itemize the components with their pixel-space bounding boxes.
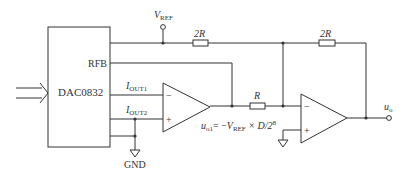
resistor-2r-1	[193, 40, 208, 46]
vref-terminal	[161, 25, 166, 30]
opamp-1-minus: −	[166, 90, 172, 101]
resistor-2r-2	[319, 40, 335, 46]
opamp-2-minus: −	[304, 101, 310, 112]
ground-icon	[278, 140, 288, 147]
iout1-label: IOUT1	[125, 80, 148, 93]
chip-label: DAC0832	[58, 86, 103, 98]
iout2-label: IOUT2	[125, 104, 148, 117]
resistor-r	[250, 103, 265, 109]
gnd-label: GND	[124, 159, 146, 170]
vref-label: VREF	[154, 9, 173, 22]
output-terminal	[387, 116, 392, 121]
resistor-2r-1-label: 2R	[194, 28, 205, 39]
input-bus-arrow-icon	[16, 83, 48, 103]
rfb-label: RFB	[88, 58, 107, 69]
circuit-diagram: DAC0832 RFB VREF 2R 2R IOUT1 IOUT2 GND −…	[0, 0, 404, 174]
output-label: uo	[384, 101, 393, 114]
opamp-1-plus: +	[166, 114, 172, 125]
uo1-formula: uo1= −VREF × D/28	[201, 119, 276, 133]
junction-dot	[161, 41, 164, 44]
opamp-2-plus: +	[304, 125, 310, 136]
resistor-r-label: R	[253, 90, 260, 101]
resistor-2r-2-label: 2R	[320, 28, 331, 39]
ground-icon	[130, 150, 140, 157]
